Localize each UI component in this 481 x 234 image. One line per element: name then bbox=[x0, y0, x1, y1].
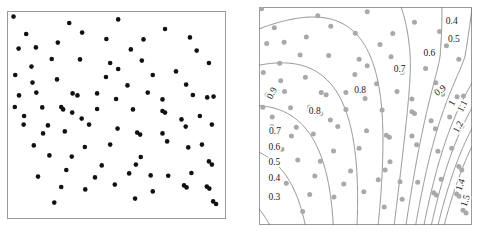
overlay-point bbox=[382, 205, 387, 210]
overlay-point bbox=[380, 107, 385, 112]
scatter-point bbox=[17, 93, 22, 98]
scatter-point bbox=[114, 97, 119, 102]
contour-label: 1.41.4 bbox=[454, 177, 467, 192]
overlay-point bbox=[434, 192, 439, 197]
overlay-point bbox=[414, 142, 419, 147]
overlay-point bbox=[437, 29, 442, 34]
overlay-point bbox=[383, 168, 388, 173]
scatter-point bbox=[133, 196, 138, 201]
scatter-point bbox=[40, 105, 45, 110]
overlay-point bbox=[343, 107, 348, 112]
contour-label: 0.40.4 bbox=[268, 173, 280, 183]
overlay-point bbox=[352, 72, 357, 77]
scatter-point bbox=[21, 122, 26, 127]
scatter-point bbox=[194, 48, 199, 53]
overlay-point bbox=[444, 43, 449, 48]
overlay-point bbox=[409, 134, 414, 139]
overlay-point bbox=[353, 31, 358, 36]
overlay-point bbox=[455, 94, 460, 99]
scatter-point bbox=[210, 162, 215, 167]
scatter-point bbox=[211, 94, 216, 99]
scatter-point bbox=[188, 35, 193, 40]
scatter-point bbox=[166, 174, 171, 179]
overlay-point bbox=[312, 173, 317, 178]
contour-label: 0.70.7 bbox=[394, 64, 406, 74]
overlay-point bbox=[264, 41, 269, 46]
contour-label-text: 0.4 bbox=[268, 173, 280, 183]
overlay-point bbox=[348, 168, 353, 173]
scatter-point bbox=[80, 30, 85, 35]
scatter-point bbox=[165, 139, 170, 144]
contour-label: 0.80.8 bbox=[309, 106, 321, 116]
overlay-point bbox=[328, 117, 333, 122]
scatter-point bbox=[141, 37, 146, 42]
scatter-point bbox=[61, 107, 66, 112]
figure-container: 0.40.40.50.50.60.60.70.70.80.80.90.9111.… bbox=[0, 0, 481, 234]
right-panel-contour-plot: 0.40.40.50.50.60.60.70.70.80.80.90.9111.… bbox=[259, 7, 472, 225]
overlay-point bbox=[364, 128, 369, 133]
overlay-point bbox=[260, 105, 265, 110]
right-panel-contour-overlay: 0.40.40.50.50.60.60.70.70.80.80.90.9111.… bbox=[259, 7, 472, 225]
overlay-point bbox=[298, 52, 303, 57]
scatter-point bbox=[95, 91, 100, 96]
overlay-point bbox=[456, 57, 461, 62]
scatter-point bbox=[207, 186, 212, 191]
contour-label: 0.50.5 bbox=[268, 157, 280, 167]
contour-line bbox=[259, 209, 270, 225]
overlay-point bbox=[331, 148, 336, 153]
scatter-point bbox=[129, 47, 134, 52]
contour-label-text: 0.7 bbox=[394, 64, 406, 74]
overlay-point bbox=[365, 9, 370, 14]
scatter-point bbox=[46, 123, 51, 128]
scatter-point bbox=[93, 175, 98, 180]
contour-label: 0.30.3 bbox=[268, 192, 280, 202]
scatter-point bbox=[116, 67, 121, 72]
scatter-point bbox=[163, 110, 168, 115]
scatter-point bbox=[179, 117, 184, 122]
scatter-point bbox=[138, 155, 143, 160]
scatter-point bbox=[160, 97, 165, 102]
scatter-point bbox=[145, 90, 150, 95]
scatter-point bbox=[16, 46, 21, 51]
scatter-point bbox=[70, 110, 75, 115]
overlay-point bbox=[395, 89, 400, 94]
overlay-point bbox=[341, 182, 346, 187]
overlay-point bbox=[284, 181, 289, 186]
scatter-point bbox=[31, 143, 36, 148]
contour-line bbox=[259, 152, 305, 225]
overlay-point bbox=[294, 125, 299, 130]
contour-label: 0.80.8 bbox=[354, 85, 366, 95]
scatter-point bbox=[63, 129, 68, 134]
contour-label: 0.70.7 bbox=[269, 126, 281, 136]
overlay-point bbox=[363, 96, 368, 101]
overlay-point bbox=[439, 177, 444, 182]
overlay-point bbox=[387, 135, 392, 140]
overlay-point bbox=[377, 42, 382, 47]
scatter-point bbox=[47, 153, 52, 158]
contour-label-text: 0.6 bbox=[423, 48, 435, 58]
overlay-point bbox=[307, 192, 312, 197]
overlay-point bbox=[318, 159, 323, 164]
overlay-point bbox=[303, 75, 308, 80]
overlay-point bbox=[300, 209, 305, 214]
scatter-point bbox=[116, 17, 121, 22]
scatter-point bbox=[30, 80, 35, 85]
overlay-point bbox=[319, 90, 324, 95]
scatter-point bbox=[64, 168, 69, 173]
contour-line bbox=[416, 9, 472, 226]
overlay-point bbox=[415, 180, 420, 185]
scatter-point bbox=[70, 91, 75, 96]
scatter-point bbox=[59, 185, 64, 190]
scatter-point bbox=[210, 122, 215, 127]
scatter-point bbox=[163, 27, 168, 32]
scatter-point bbox=[134, 162, 139, 167]
overlay-point bbox=[376, 177, 381, 182]
scatter-point bbox=[198, 114, 203, 119]
scatter-point bbox=[79, 116, 84, 121]
scatter-point bbox=[183, 124, 188, 129]
overlay-point bbox=[331, 195, 336, 200]
scatter-point bbox=[108, 142, 113, 147]
contour-label: 0.60.6 bbox=[423, 48, 435, 58]
contour-label-text: 0.8 bbox=[309, 106, 321, 116]
scatter-point bbox=[56, 40, 61, 45]
